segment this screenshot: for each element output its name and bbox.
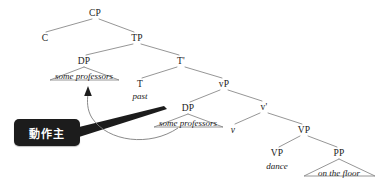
terminal-pp-on-the-floor: on the floor: [318, 168, 360, 178]
terminal-dp-upper: some professors: [55, 71, 113, 81]
node-vp-big: VP: [298, 125, 311, 135]
node-pp: PP: [334, 148, 345, 158]
node-dp-upper: DP: [78, 56, 91, 66]
node-cp: CP: [89, 8, 101, 18]
branch-vbar-v: [235, 113, 260, 124]
node-c: C: [42, 33, 49, 43]
movement-arrow-head: [84, 86, 92, 96]
tree-branches-svg: [0, 0, 389, 185]
syntax-tree-diagram: CP C TP DP T' T vP DP v' v VP VP PP some…: [0, 0, 389, 185]
branch-tp-tbar: [141, 44, 179, 55]
branch-vbar-vp: [268, 113, 302, 124]
branch-tp-dp: [86, 44, 133, 55]
node-vp-inner: VP: [271, 148, 284, 158]
branch-cp-c: [46, 19, 92, 32]
branch-tbar-t: [142, 67, 177, 78]
node-vp-small: vP: [219, 79, 229, 89]
agent-callout-label: 動作主: [29, 125, 65, 141]
branch-vp-vbar: [228, 90, 262, 101]
branch-vp-pp: [308, 136, 337, 147]
terminal-vp-dance: dance: [266, 161, 288, 171]
terminal-t-past: past: [132, 91, 147, 101]
branch-tbar-vp: [185, 67, 222, 78]
node-dp-lower: DP: [182, 103, 195, 113]
terminal-dp-lower: some professors: [159, 118, 217, 128]
node-v-head: v: [231, 125, 235, 135]
branch-vp-vpinner: [279, 136, 300, 147]
node-t-bar: T': [177, 56, 185, 66]
agent-callout-box: 動作主: [14, 119, 80, 146]
node-tp: TP: [131, 33, 143, 43]
branch-vp-dp: [190, 90, 220, 102]
node-v-bar: v': [261, 102, 268, 112]
node-t: T: [137, 79, 143, 89]
branch-cp-tp: [99, 19, 134, 32]
